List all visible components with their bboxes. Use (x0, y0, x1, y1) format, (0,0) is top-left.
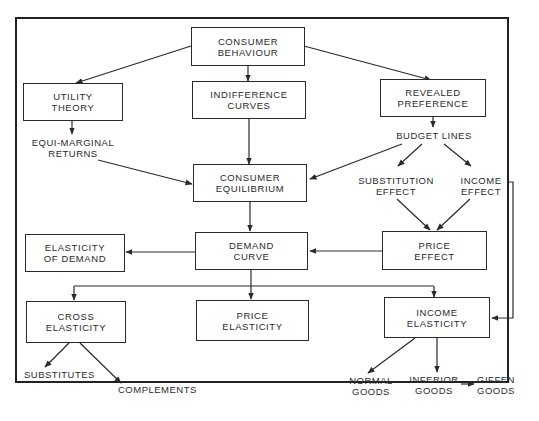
box-price-effect: PRICE EFFECT (382, 231, 487, 270)
label-substitutes: SUBSTITUTES (24, 369, 104, 380)
box-cross-elasticity: CROSS ELASTICITY (26, 301, 126, 343)
label-equi-marginal-returns: EQUI-MARGINAL RETURNS (26, 137, 120, 159)
box-indifference-curves: INDIFFERENCE CURVES (192, 81, 306, 119)
box-elasticity-of-demand: ELASTICITY OF DEMAND (25, 234, 125, 272)
label-giffen-goods: GIFFEN GOODS (474, 374, 518, 396)
box-revealed-preference: REVEALED PREFERENCE (380, 79, 486, 117)
box-demand-curve: DEMAND CURVE (195, 232, 308, 270)
box-consumer-equilibrium: CONSUMER EQUILIBRIUM (193, 164, 307, 202)
box-utility-theory: UTILITY THEORY (23, 83, 123, 121)
label-income-effect: INCOME EFFECT (453, 175, 509, 197)
box-consumer-behaviour: CONSUMER BEHAVIOUR (191, 27, 305, 66)
label-inferior-goods: INFERIOR GOODS (403, 374, 465, 396)
label-substitution-effect: SUBSTITUTION EFFECT (350, 175, 442, 197)
label-normal-goods: NORMAL GOODS (345, 375, 397, 397)
label-complements: COMPLEMENTS (118, 384, 202, 395)
box-price-elasticity: PRICE ELASTICITY (196, 300, 309, 341)
box-income-elasticity: INCOME ELASTICITY (384, 297, 490, 338)
label-budget-lines: BUDGET LINES (392, 130, 476, 141)
